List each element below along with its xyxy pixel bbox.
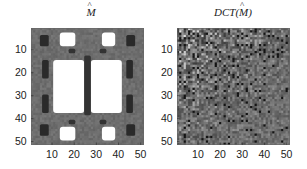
right-heatmap (177, 28, 290, 145)
x-tick-label: 40 (259, 149, 271, 160)
y-tick-label: 20 (161, 67, 173, 78)
title-suffix: ) (248, 6, 252, 18)
title-prefix: DCT( (214, 6, 239, 18)
title-accent: ^ (240, 0, 244, 10)
right-panel: DCT(M^) 10203040501020304050 (0, 0, 307, 169)
y-tick-label: 40 (161, 113, 173, 124)
y-tick-label: 50 (161, 136, 173, 147)
x-tick-label: 10 (192, 149, 204, 160)
x-tick-label: 20 (214, 149, 226, 160)
x-tick-label: 50 (281, 149, 293, 160)
x-tick-label: 30 (236, 149, 248, 160)
right-plot-title: DCT(M^) (203, 6, 263, 18)
y-tick-label: 10 (161, 44, 173, 55)
y-tick-label: 30 (161, 90, 173, 101)
